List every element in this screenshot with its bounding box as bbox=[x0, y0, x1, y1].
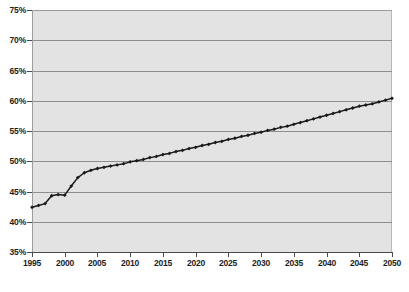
data-point-marker bbox=[213, 141, 217, 145]
y-tick-label: 75% bbox=[0, 5, 26, 15]
data-point-marker bbox=[154, 155, 158, 159]
data-point-marker bbox=[318, 115, 322, 119]
data-point-marker bbox=[325, 113, 329, 117]
data-point-marker bbox=[259, 130, 263, 134]
data-point-marker bbox=[30, 205, 34, 209]
x-tick-mark bbox=[261, 252, 262, 257]
data-point-marker bbox=[246, 133, 250, 137]
x-tick-mark bbox=[392, 252, 393, 257]
data-point-marker bbox=[207, 142, 211, 146]
data-point-marker bbox=[272, 127, 276, 131]
x-tick-label: 2010 bbox=[113, 258, 147, 268]
x-tick-label: 1995 bbox=[15, 258, 49, 268]
data-point-marker bbox=[122, 162, 126, 166]
y-tick-label: 40% bbox=[0, 217, 26, 227]
data-point-marker bbox=[174, 150, 178, 154]
data-point-marker bbox=[102, 165, 106, 169]
data-point-marker bbox=[115, 163, 119, 167]
footer-ghost-text bbox=[6, 282, 406, 290]
y-tick-label: 60% bbox=[0, 96, 26, 106]
y-tick-label: 55% bbox=[0, 126, 26, 136]
data-point-marker bbox=[370, 102, 374, 106]
x-tick-mark bbox=[294, 252, 295, 257]
x-tick-mark bbox=[228, 252, 229, 257]
data-point-marker bbox=[194, 145, 198, 149]
x-tick-mark bbox=[359, 252, 360, 257]
y-tick-label: 70% bbox=[0, 35, 26, 45]
data-point-marker bbox=[226, 138, 230, 142]
data-point-marker bbox=[338, 110, 342, 114]
x-tick-label: 2025 bbox=[211, 258, 245, 268]
data-point-marker bbox=[312, 117, 316, 121]
data-point-marker bbox=[384, 98, 388, 102]
data-point-marker bbox=[266, 128, 270, 132]
data-point-marker bbox=[168, 151, 172, 155]
data-point-marker bbox=[292, 122, 296, 126]
data-point-marker bbox=[279, 125, 283, 129]
data-point-marker bbox=[37, 204, 41, 208]
data-point-marker bbox=[220, 139, 224, 143]
data-point-marker bbox=[351, 106, 355, 110]
data-point-marker bbox=[377, 100, 381, 104]
data-point-marker bbox=[181, 148, 185, 152]
data-point-marker bbox=[253, 132, 257, 136]
x-tick-label: 2015 bbox=[146, 258, 180, 268]
x-tick-label: 2020 bbox=[179, 258, 213, 268]
data-point-marker bbox=[89, 168, 93, 172]
series-markers bbox=[30, 96, 394, 209]
x-tick-label: 2030 bbox=[244, 258, 278, 268]
data-point-marker bbox=[331, 112, 335, 116]
data-point-marker bbox=[109, 164, 113, 168]
x-tick-mark bbox=[130, 252, 131, 257]
data-point-marker bbox=[298, 121, 302, 125]
x-tick-label: 2035 bbox=[277, 258, 311, 268]
data-point-marker bbox=[200, 144, 204, 148]
data-point-marker bbox=[344, 108, 348, 112]
data-point-marker bbox=[187, 147, 191, 151]
series-line bbox=[32, 98, 392, 207]
data-series-layer bbox=[32, 10, 392, 252]
data-point-marker bbox=[56, 193, 60, 197]
data-point-marker bbox=[305, 119, 309, 123]
x-tick-mark bbox=[32, 252, 33, 257]
data-point-marker bbox=[233, 136, 237, 140]
x-tick-mark bbox=[65, 252, 66, 257]
data-point-marker bbox=[141, 158, 145, 162]
y-tick-label: 65% bbox=[0, 66, 26, 76]
y-tick-label: 50% bbox=[0, 156, 26, 166]
y-tick-label: 45% bbox=[0, 187, 26, 197]
y-tick-label: 35% bbox=[0, 247, 26, 257]
data-point-marker bbox=[128, 160, 132, 164]
x-tick-mark bbox=[97, 252, 98, 257]
x-tick-mark bbox=[163, 252, 164, 257]
x-tick-label: 2000 bbox=[48, 258, 82, 268]
data-point-marker bbox=[135, 159, 139, 163]
data-point-marker bbox=[161, 153, 165, 157]
data-point-marker bbox=[96, 167, 100, 171]
data-point-marker bbox=[285, 124, 289, 128]
x-tick-label: 2045 bbox=[342, 258, 376, 268]
data-point-marker bbox=[240, 135, 244, 139]
data-point-marker bbox=[390, 96, 394, 100]
data-point-marker bbox=[364, 103, 368, 107]
x-tick-label: 2050 bbox=[375, 258, 409, 268]
x-tick-label: 2040 bbox=[310, 258, 344, 268]
x-tick-mark bbox=[327, 252, 328, 257]
x-tick-mark bbox=[196, 252, 197, 257]
data-point-marker bbox=[357, 104, 361, 108]
x-tick-label: 2005 bbox=[80, 258, 114, 268]
chart-screenshot: 35%40%45%50%55%60%65%70%75% 199520002005… bbox=[0, 0, 409, 292]
x-axis-line bbox=[32, 252, 393, 253]
data-point-marker bbox=[148, 156, 152, 160]
